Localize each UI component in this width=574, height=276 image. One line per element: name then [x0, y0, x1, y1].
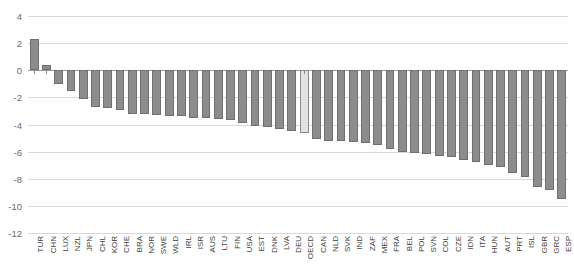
bar	[79, 70, 88, 98]
bar-slot	[421, 16, 433, 233]
x-tick-mark	[365, 70, 366, 74]
bar-slot	[163, 16, 175, 233]
y-tick-label: 2	[17, 38, 22, 49]
bar	[140, 70, 149, 113]
bar	[545, 70, 554, 189]
y-tick-label: -4	[14, 119, 22, 130]
bar-slot	[298, 16, 310, 233]
x-tick-mark	[562, 70, 563, 74]
x-tick-mark	[316, 70, 317, 74]
x-tick-mark	[255, 70, 256, 74]
y-tick-label: -8	[14, 173, 22, 184]
bar-slot	[188, 16, 200, 233]
bar-slot	[237, 16, 249, 233]
bar-slot	[531, 16, 543, 233]
x-axis-label: ESP	[565, 236, 573, 252]
bar-chart: 420-2-4-6-8-10-12 TURCHNLUXNZLJPNCHLKORC…	[0, 0, 574, 276]
bar-slot	[470, 16, 482, 233]
bar	[398, 70, 407, 151]
bar	[410, 70, 419, 153]
x-axis-label: GBR	[541, 236, 549, 253]
bar	[189, 70, 198, 117]
bar-slot	[114, 16, 126, 233]
bar	[251, 70, 260, 126]
x-tick-mark	[59, 70, 60, 74]
x-tick-mark	[169, 70, 170, 74]
bar-slot	[433, 16, 445, 233]
x-tick-mark	[427, 70, 428, 74]
x-axis-label: LUX	[62, 236, 70, 252]
x-axis-label: CHN	[50, 236, 58, 253]
bar-slot	[458, 16, 470, 233]
bar	[508, 70, 517, 173]
x-axis-label: CAN	[320, 236, 328, 253]
x-tick-mark	[390, 70, 391, 74]
x-tick-mark	[451, 70, 452, 74]
x-tick-mark	[378, 70, 379, 74]
x-axis-label: HUN	[491, 236, 499, 253]
x-axis-label: IDN	[467, 236, 475, 250]
bar-slot	[53, 16, 65, 233]
x-tick-mark	[230, 70, 231, 74]
bar-slot	[335, 16, 347, 233]
x-axis-label: IND	[356, 236, 364, 250]
bar	[435, 70, 444, 155]
bar-slot	[372, 16, 384, 233]
x-axis-label: MEX	[381, 236, 389, 253]
bar	[484, 70, 493, 165]
x-tick-mark	[550, 70, 551, 74]
y-tick-label: 0	[17, 65, 22, 76]
bar	[128, 70, 137, 113]
bar	[226, 70, 235, 120]
x-tick-mark	[304, 70, 305, 74]
y-tick-label: 4	[17, 11, 22, 22]
x-tick-mark	[464, 70, 465, 74]
x-axis-label: CZE	[455, 236, 463, 252]
bar	[521, 70, 530, 177]
x-tick-mark	[329, 70, 330, 74]
y-axis-labels: 420-2-4-6-8-10-12	[0, 16, 26, 233]
x-tick-mark	[353, 70, 354, 74]
bar	[263, 70, 272, 127]
bar-slot	[359, 16, 371, 233]
bar-slot	[347, 16, 359, 233]
x-tick-mark	[181, 70, 182, 74]
x-tick-mark	[95, 70, 96, 74]
bar-slot	[494, 16, 506, 233]
bar-slot	[445, 16, 457, 233]
bar-slot	[482, 16, 494, 233]
x-tick-mark	[120, 70, 121, 74]
x-axis-label: ITA	[479, 236, 487, 248]
x-tick-mark	[157, 70, 158, 74]
x-tick-mark	[218, 70, 219, 74]
gridline	[28, 233, 568, 234]
x-axis-label: NZL	[74, 236, 82, 251]
bar-slot	[556, 16, 568, 233]
x-axis-label: GRC	[553, 236, 561, 254]
x-tick-mark	[341, 70, 342, 74]
bar-slot	[175, 16, 187, 233]
bar-slot	[507, 16, 519, 233]
x-tick-mark	[108, 70, 109, 74]
bar	[337, 70, 346, 141]
x-axis-label: DEU	[295, 236, 303, 253]
x-axis-label: ZAF	[369, 236, 377, 251]
bar-slot	[261, 16, 273, 233]
bar-slot	[286, 16, 298, 233]
bar	[533, 70, 542, 187]
bar	[373, 70, 382, 145]
bar-slot	[310, 16, 322, 233]
bar-slot	[224, 16, 236, 233]
x-axis-label: FRA	[393, 236, 401, 252]
x-axis-label: NLD	[332, 236, 340, 252]
x-tick-mark	[267, 70, 268, 74]
bar-slot	[77, 16, 89, 233]
x-axis-label: TUR	[37, 236, 45, 252]
x-axis-label: LTU	[221, 236, 229, 251]
bar-series	[28, 16, 568, 233]
x-axis-label: BEL	[406, 236, 414, 251]
x-axis-label: AUS	[209, 236, 217, 252]
x-axis-label: FIN	[234, 236, 242, 249]
x-axis-label: ISR	[197, 236, 205, 249]
bar	[91, 70, 100, 107]
